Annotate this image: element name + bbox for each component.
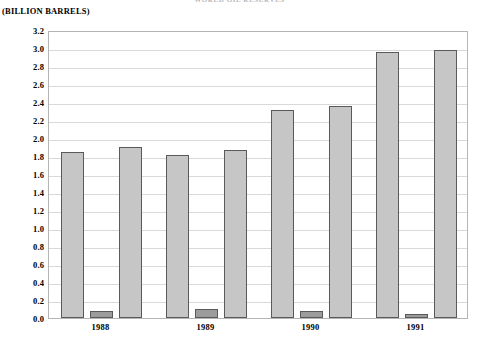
y-axis-tick-label: 3.2 (0, 26, 44, 36)
y-axis-tick-label: 0.2 (0, 296, 44, 306)
y-axis-tick-label: 0.6 (0, 260, 44, 270)
y-axis-tick-label: 1.0 (0, 224, 44, 234)
y-axis-tick-label: 0.4 (0, 278, 44, 288)
y-axis-tick-label: 1.4 (0, 188, 44, 198)
y-axis-tick-label: 0.0 (0, 314, 44, 324)
x-axis-tick-labels: 1988198919901991 (48, 322, 468, 336)
bar-group (376, 32, 457, 318)
plot-area (48, 31, 468, 319)
x-axis-tick-label: 1989 (197, 322, 215, 332)
y-axis-tick-label: 0.8 (0, 242, 44, 252)
bar (300, 311, 323, 318)
bar (271, 110, 294, 318)
y-axis-tick-labels: 3.23.02.82.62.42.22.01.81.61.41.21.00.80… (0, 31, 44, 319)
y-axis-tick-label: 1.6 (0, 170, 44, 180)
bar (376, 52, 399, 318)
y-axis-tick-label: 2.8 (0, 62, 44, 72)
bar-group (61, 32, 142, 318)
y-axis-tick-label: 2.2 (0, 116, 44, 126)
bar (329, 106, 352, 318)
y-axis-tick-label: 1.8 (0, 152, 44, 162)
bar (166, 155, 189, 318)
y-axis-tick-label: 2.6 (0, 80, 44, 90)
bar (61, 152, 84, 318)
bar-chart: WORLD OIL RESERVES (BILLION BARRELS) 3.2… (0, 0, 479, 353)
y-axis-unit-label: (BILLION BARRELS) (2, 6, 90, 16)
y-axis-tick-label: 1.2 (0, 206, 44, 216)
bar (405, 314, 428, 319)
y-axis-tick-label: 2.0 (0, 134, 44, 144)
y-axis-tick-label: 2.4 (0, 98, 44, 108)
bar (224, 150, 247, 318)
bar-group (166, 32, 247, 318)
bar (119, 147, 142, 318)
x-axis-tick-label: 1988 (92, 322, 110, 332)
bar (195, 309, 218, 318)
chart-title: WORLD OIL RESERVES (0, 0, 479, 5)
y-axis-tick-label: 3.0 (0, 44, 44, 54)
bar (90, 311, 113, 318)
bar (434, 50, 457, 318)
x-axis-tick-label: 1990 (302, 322, 320, 332)
x-axis-tick-label: 1991 (407, 322, 425, 332)
bar-group (271, 32, 352, 318)
